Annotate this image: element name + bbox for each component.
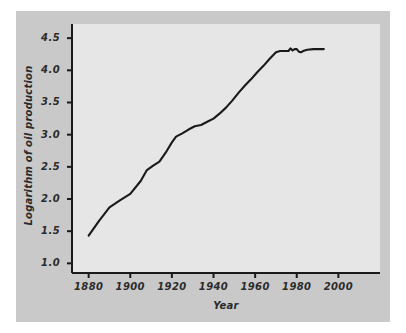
y-tick-label: 1.0 (28, 257, 60, 268)
x-tick-label: 2000 (316, 281, 360, 292)
x-tick-label: 1880 (67, 281, 111, 292)
x-tick-label: 1920 (150, 281, 194, 292)
x-tick-label: 1900 (108, 281, 152, 292)
y-tick-label: 4.5 (28, 32, 60, 43)
y-axis-title: Logarithm of oil production (23, 56, 34, 236)
chart-page: 1.01.52.02.53.03.54.04.5 188019001920194… (0, 0, 406, 333)
data-series-line (89, 48, 324, 235)
x-tick-label: 1960 (233, 281, 277, 292)
x-tick-label: 1980 (275, 281, 319, 292)
x-axis-title: Year (72, 300, 380, 311)
x-tick-label: 1940 (192, 281, 236, 292)
